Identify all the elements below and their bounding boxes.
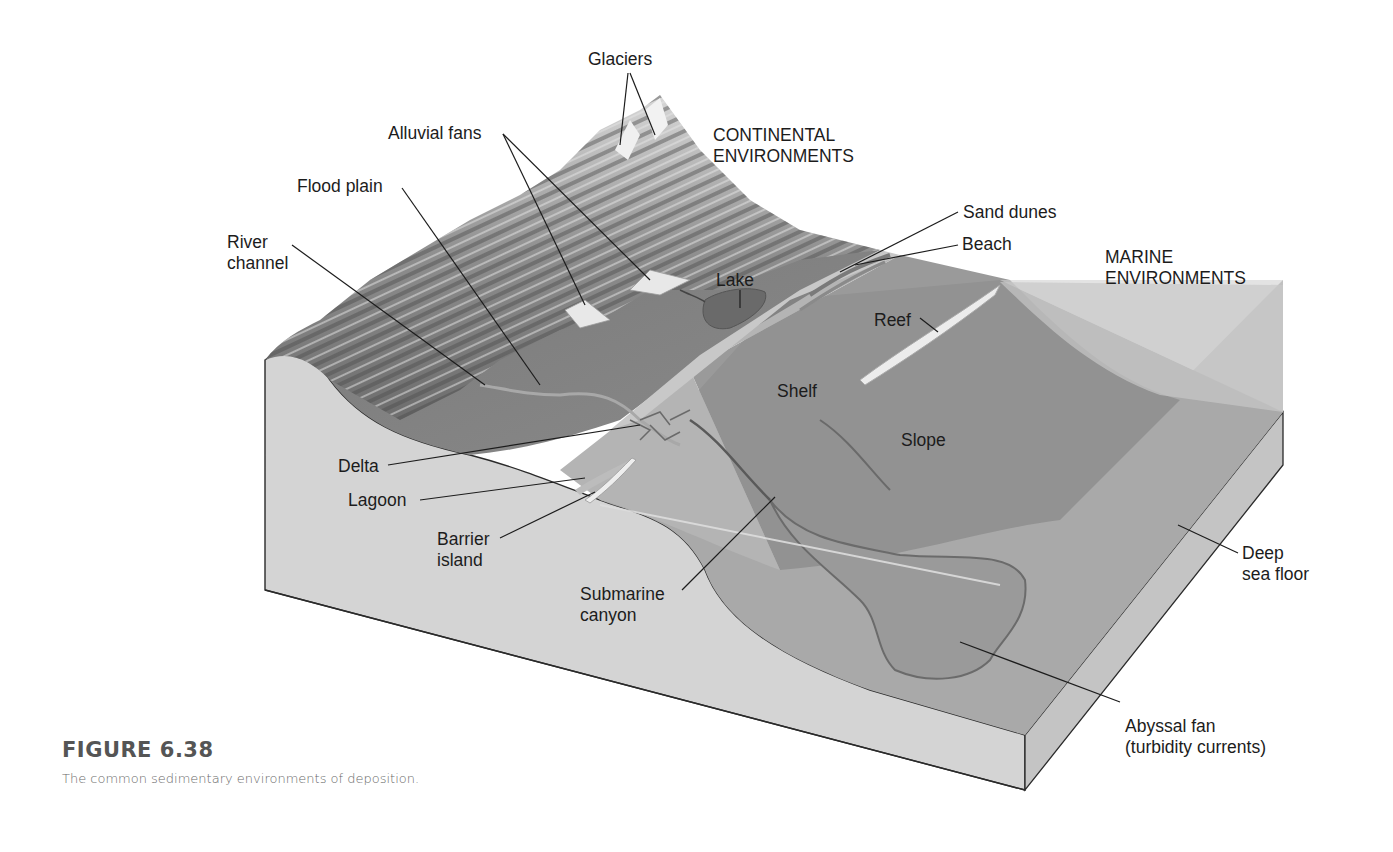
- label-alluvial-fans: Alluvial fans: [388, 123, 481, 144]
- figure-title: FIGURE 6.38: [62, 738, 214, 762]
- label-lagoon: Lagoon: [348, 490, 406, 511]
- label-glaciers: Glaciers: [588, 49, 652, 70]
- label-reef: Reef: [874, 310, 911, 331]
- label-sand-dunes: Sand dunes: [963, 202, 1056, 223]
- label-shelf: Shelf: [777, 381, 817, 402]
- label-river-channel: River channel: [227, 232, 288, 274]
- label-deep-sea-floor: Deep sea floor: [1242, 543, 1309, 585]
- label-flood-plain: Flood plain: [297, 176, 383, 197]
- label-lake: Lake: [716, 270, 754, 291]
- label-slope: Slope: [901, 430, 946, 451]
- figure-caption: The common sedimentary environments of d…: [62, 771, 419, 786]
- label-abyssal-fan: Abyssal fan (turbidity currents): [1125, 716, 1266, 758]
- label-delta: Delta: [338, 456, 379, 477]
- label-submarine-canyon: Submarine canyon: [580, 584, 665, 626]
- label-beach: Beach: [962, 234, 1012, 255]
- label-barrier-island: Barrier island: [437, 529, 490, 571]
- heading-marine-environments: MARINE ENVIRONMENTS: [1105, 247, 1246, 289]
- heading-continental-environments: CONTINENTAL ENVIRONMENTS: [713, 125, 854, 167]
